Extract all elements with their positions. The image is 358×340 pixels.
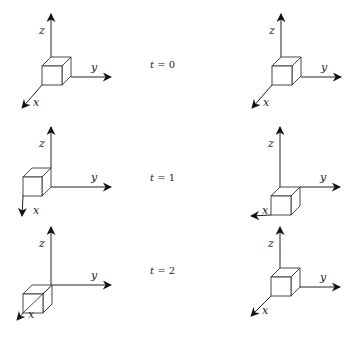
frame-left-row-0: zyx xyxy=(22,14,111,109)
z-axis-label: z xyxy=(38,237,45,250)
x-axis-label: x xyxy=(263,96,270,109)
y-axis-label: y xyxy=(90,269,98,282)
coordinate-frames-diagram: zyxzyxzyxzyxzyxzyx t = 0t = 1t = 2 xyxy=(0,0,358,340)
z-axis-label: z xyxy=(38,137,45,150)
cube xyxy=(23,168,51,196)
cube xyxy=(271,268,300,296)
frame-right-row-1: zyx xyxy=(251,127,340,217)
x-axis xyxy=(17,313,23,320)
time-label: t = 1 xyxy=(150,172,175,183)
y-axis-label: y xyxy=(319,171,327,184)
cube xyxy=(42,57,71,85)
figure-canvas: zyxzyxzyxzyxzyxzyx t = 0t = 1t = 2 t = 0… xyxy=(0,0,358,340)
frame-left-row-2: zyx xyxy=(17,227,111,321)
x-axis xyxy=(22,196,23,216)
x-axis-label: x xyxy=(28,308,35,321)
cube xyxy=(272,57,301,85)
z-axis-label: z xyxy=(267,137,274,150)
z-axis-label: z xyxy=(267,237,274,250)
z-axis-label: z xyxy=(38,24,45,37)
z-axis-label: z xyxy=(268,24,275,37)
x-axis-label: x xyxy=(262,304,269,317)
frame-left-row-1: zyx xyxy=(22,127,111,217)
x-axis-label: x xyxy=(33,204,40,217)
y-axis-label: y xyxy=(90,61,98,74)
y-axis-label: y xyxy=(320,61,328,74)
time-label: t = 2 xyxy=(150,265,175,276)
cube xyxy=(271,187,300,215)
x-axis-label: x xyxy=(262,204,269,217)
x-axis-label: x xyxy=(33,96,40,109)
y-axis-label: y xyxy=(319,271,327,284)
time-label: t = 0 xyxy=(150,59,175,70)
frame-right-row-2: zyx xyxy=(251,227,340,317)
y-axis-label: y xyxy=(90,171,98,184)
frame-right-row-0: zyx xyxy=(252,14,341,109)
